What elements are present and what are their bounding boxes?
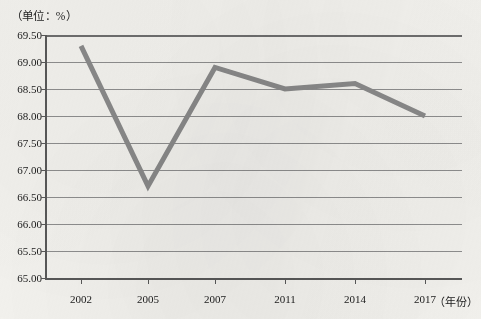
x-tick-label-2002: 2002 bbox=[70, 293, 92, 305]
y-tick-label-65.50: 65.50 bbox=[17, 245, 42, 257]
x-axis-unit-label: （年份） bbox=[434, 293, 478, 309]
y-tick-label-65.00: 65.00 bbox=[17, 272, 42, 284]
x-tick-label-2017: 2017 bbox=[414, 293, 436, 305]
x-tick-label-2011: 2011 bbox=[274, 293, 296, 305]
y-tick-label-66.50: 66.50 bbox=[17, 191, 42, 203]
y-tick-label-67.00: 67.00 bbox=[17, 164, 42, 176]
x-axis-tick-label-group: 200220052007201120142017 bbox=[46, 35, 462, 315]
y-tick-label-69.00: 69.00 bbox=[17, 56, 42, 68]
y-axis-unit-label: （单位：%） bbox=[11, 7, 77, 23]
y-axis-tick-label-group: 69.5069.0068.5068.0067.5067.0066.5066.00… bbox=[0, 35, 42, 278]
x-tick-label-2005: 2005 bbox=[137, 293, 159, 305]
x-tick-label-2014: 2014 bbox=[344, 293, 366, 305]
x-tick-label-2007: 2007 bbox=[204, 293, 226, 305]
y-tick-label-67.50: 67.50 bbox=[17, 137, 42, 149]
y-tick-label-68.50: 68.50 bbox=[17, 83, 42, 95]
y-tick-label-69.50: 69.50 bbox=[17, 29, 42, 41]
y-tick-label-68.00: 68.00 bbox=[17, 110, 42, 122]
y-tick-label-66.00: 66.00 bbox=[17, 218, 42, 230]
